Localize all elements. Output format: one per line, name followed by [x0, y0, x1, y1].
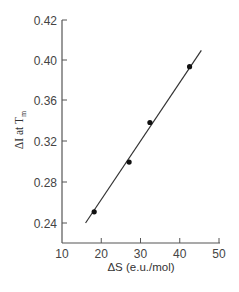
- y-tick-label: 0.42: [34, 14, 58, 28]
- x-tick-label: 50: [212, 247, 226, 261]
- y-tick-label: 0.40: [34, 54, 58, 68]
- y-tick-label: 0.36: [34, 94, 58, 108]
- x-tick-label: 20: [95, 247, 109, 261]
- y-axis: 0.240.280.320.360.400.42: [34, 14, 67, 244]
- x-tick-label: 30: [134, 247, 148, 261]
- x-axis-title: ΔS (e.u./mol): [107, 261, 174, 273]
- y-tick-label: 0.28: [34, 176, 58, 190]
- data-point: [127, 160, 132, 165]
- scatter-chart: 0.240.280.320.360.400.42 1020304050 ΔS (…: [0, 0, 239, 292]
- x-axis: 1020304050: [55, 238, 226, 261]
- data-point: [92, 209, 97, 214]
- fit-line: [86, 50, 202, 223]
- y-tick-label: 0.32: [34, 135, 58, 149]
- data-point: [147, 120, 152, 125]
- x-tick-label: 10: [55, 247, 69, 261]
- y-axis-title: ΔI at Tm: [13, 110, 28, 149]
- x-tick-label: 40: [173, 247, 187, 261]
- y-tick-label: 0.24: [34, 217, 58, 231]
- data-point: [187, 64, 192, 69]
